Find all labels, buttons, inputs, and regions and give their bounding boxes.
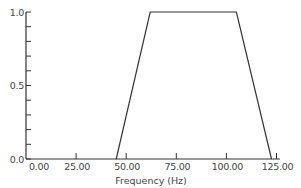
x-tick-label: 0.00 [29, 161, 49, 172]
plot-area [116, 12, 271, 159]
y-tick-label: 0.5 [10, 80, 24, 91]
x-tick-label: 100.00 [212, 161, 244, 172]
chart: 0.00.51.0 0.0025.0050.0075.00100.00125.0… [0, 0, 301, 188]
y-tick-label: 0.0 [10, 154, 24, 165]
x-tick-label: 25.00 [64, 161, 90, 172]
x-ticks: 0.0025.0050.0075.00100.00125.00 [29, 153, 293, 172]
x-axis-title: Frequency (Hz) [115, 175, 187, 186]
series-line-response [116, 12, 271, 159]
y-ticks: 0.00.51.0 [10, 7, 31, 165]
x-tick-label: 50.00 [114, 161, 140, 172]
x-tick-label: 75.00 [164, 161, 190, 172]
y-tick-label: 1.0 [10, 7, 24, 18]
x-tick-label: 125.00 [262, 161, 294, 172]
